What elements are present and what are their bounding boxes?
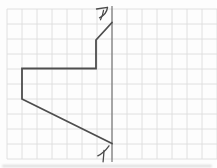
axis-top-label: ア — [96, 7, 109, 22]
grid-paper-canvas: ア イ — [0, 0, 217, 168]
paper-edge-shadow — [2, 165, 212, 167]
symmetry-worksheet-figure: ア イ — [0, 0, 217, 168]
axis-bottom-label: イ — [97, 149, 110, 164]
